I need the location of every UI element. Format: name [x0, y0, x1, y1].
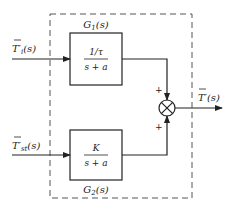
block-g2-label: G2(s) — [83, 184, 109, 197]
input1-label: T′i(s) — [12, 43, 36, 56]
block-g1-label: G1(s) — [83, 19, 109, 32]
system-boundary — [50, 14, 192, 198]
g1-denominator: s + a — [84, 62, 107, 72]
input2-label: T′st(s) — [12, 140, 40, 153]
g1-numerator: 1/τ — [89, 47, 104, 57]
sum-sign-bottom: + — [155, 122, 163, 132]
g2-denominator: s + a — [84, 158, 107, 168]
summing-junction — [159, 100, 175, 116]
output-label: T′(s) — [198, 92, 220, 103]
block-diagram: G1(s) 1/τ s + a G2(s) K s + a T′i(s) T′s… — [0, 0, 230, 212]
g2-numerator: K — [92, 143, 101, 153]
sum-sign-top: + — [155, 85, 163, 95]
